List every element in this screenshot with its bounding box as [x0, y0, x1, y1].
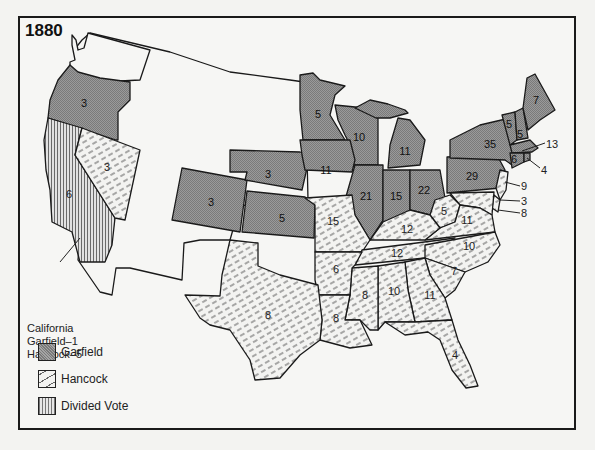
maryland-callout-line	[498, 210, 520, 213]
label-vermont: 5	[506, 118, 512, 130]
label-nebraska: 3	[265, 168, 271, 180]
label-maine: 7	[533, 94, 539, 106]
legend-item-divided: Divided Vote	[38, 392, 128, 419]
label-new-hampshire: 5	[517, 128, 523, 140]
label-texas: 8	[265, 309, 271, 321]
state-texas[interactable]	[185, 240, 322, 380]
label-minnesota: 5	[315, 108, 321, 120]
label-louisiana: 8	[333, 312, 339, 324]
map-title: 1880	[25, 21, 63, 41]
label-west-virginia: 5	[441, 205, 447, 217]
california-note-state: California	[27, 322, 82, 335]
label-virginia: 11	[461, 214, 472, 226]
label-rhode-island: 4	[541, 164, 547, 176]
label-tennessee: 12	[391, 247, 403, 259]
label-connecticut: 6	[511, 153, 517, 165]
label-kentucky: 12	[401, 223, 413, 235]
label-iowa: 11	[320, 164, 331, 176]
label-delaware: 3	[521, 195, 527, 207]
label-oregon: 3	[81, 97, 87, 109]
legend-label-garfield: Garfield	[61, 345, 103, 359]
label-florida: 4	[452, 349, 458, 361]
label-michigan: 11	[399, 145, 410, 157]
label-massachusetts: 13	[546, 138, 558, 150]
label-georgia: 11	[424, 289, 435, 301]
label-pennsylvania: 29	[466, 170, 478, 182]
state-florida[interactable]	[385, 320, 478, 388]
legend: Garfield Hancock Divided Vote	[38, 338, 128, 419]
label-nevada: 3	[104, 161, 110, 173]
state-rhode-island[interactable]	[524, 153, 530, 162]
delaware-callout-line	[500, 200, 520, 201]
label-mississippi: 8	[362, 289, 368, 301]
divided-vote-swatch-icon	[38, 397, 56, 415]
garfield-swatch-icon	[38, 343, 56, 361]
label-arkansas: 6	[333, 263, 339, 275]
legend-label-hancock: Hancock	[61, 372, 108, 386]
legend-item-garfield: Garfield	[38, 338, 128, 365]
label-south-carolina: 7	[451, 265, 457, 277]
legend-label-divided: Divided Vote	[61, 399, 128, 413]
label-ohio: 22	[418, 184, 430, 196]
label-maryland: 8	[521, 207, 527, 219]
hancock-swatch-icon	[38, 370, 56, 388]
label-colorado: 3	[208, 196, 214, 208]
label-north-carolina: 10	[463, 240, 475, 252]
label-illinois: 21	[360, 190, 372, 202]
label-alabama: 10	[388, 285, 400, 297]
legend-item-hancock: Hancock	[38, 365, 128, 392]
label-missouri: 15	[327, 215, 339, 227]
label-kansas: 5	[279, 212, 285, 224]
state-michigan[interactable]	[388, 118, 425, 168]
rhode-island-callout-line	[527, 158, 540, 168]
label-california: 6	[66, 188, 72, 200]
label-wisconsin: 10	[353, 131, 365, 143]
label-new-york: 35	[484, 138, 496, 150]
label-new-jersey: 9	[521, 180, 527, 192]
label-indiana: 15	[390, 190, 402, 202]
